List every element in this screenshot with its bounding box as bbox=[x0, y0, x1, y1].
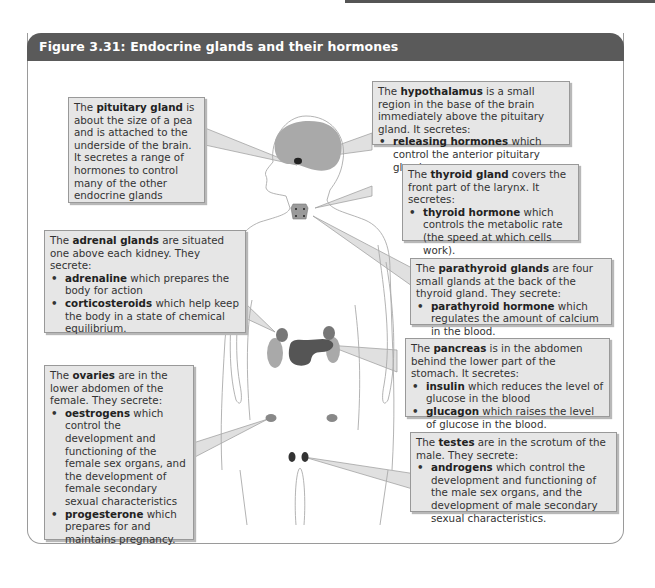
term-ovaries: ovaries bbox=[72, 369, 114, 381]
term-thyroid-gland: thyroid gland bbox=[430, 168, 508, 180]
pointer-thyroid bbox=[315, 186, 372, 208]
list-item: adrenaline which prepares the body for a… bbox=[50, 272, 240, 297]
term-testes: testes bbox=[438, 436, 474, 448]
testis-right bbox=[302, 452, 309, 462]
pointer-ovaries bbox=[193, 419, 268, 458]
callout-testes: The testes are in the scrotum of the mal… bbox=[410, 432, 617, 512]
pointer-parathyroid bbox=[313, 216, 412, 286]
ovary-right bbox=[327, 414, 338, 422]
kidney-left bbox=[267, 338, 283, 368]
testis-left bbox=[289, 452, 296, 462]
term-adrenal-glands: adrenal glands bbox=[72, 234, 158, 246]
callout-adrenal: The adrenal glands are situated one abov… bbox=[44, 230, 246, 333]
ovary-left bbox=[266, 414, 277, 422]
adrenal-left bbox=[276, 328, 288, 342]
list-item: thyroid hormone which controls the metab… bbox=[408, 206, 573, 256]
list-item: progesterone which prepares for and main… bbox=[50, 508, 188, 546]
adrenal-right bbox=[323, 326, 335, 340]
term-hypothalamus: hypothalamus bbox=[400, 85, 482, 97]
callout-hypothalamus: The hypothalamus is a small region in th… bbox=[372, 81, 570, 145]
pituitary-gland-shape bbox=[294, 158, 302, 164]
pointer-testes bbox=[304, 457, 416, 490]
list-item: glucagon which raises the level of gluco… bbox=[411, 405, 604, 430]
callout-pancreas: The pancreas is in the abdomen behind th… bbox=[405, 338, 610, 417]
brain-shape bbox=[275, 121, 342, 171]
callout-ovaries: The ovaries are in the lower abdomen of … bbox=[44, 365, 194, 540]
thyroid-gland-shape bbox=[291, 204, 308, 219]
term-pituitary-gland: pituitary gland bbox=[96, 101, 182, 113]
list-item: parathyroid hormone which regulates the … bbox=[416, 300, 606, 338]
term-parathyroid-glands: parathyroid glands bbox=[438, 262, 549, 274]
callout-thyroid: The thyroid gland covers the front part … bbox=[402, 164, 579, 241]
callout-pituitary: The pituitary gland is about the size of… bbox=[68, 97, 205, 203]
list-item: insulin which reduces the level of gluco… bbox=[411, 380, 604, 405]
term-pancreas: pancreas bbox=[433, 342, 486, 354]
callout-parathyroid: The parathyroid glands are four small gl… bbox=[410, 258, 612, 325]
list-item: corticosteroids which help keep the body… bbox=[50, 297, 240, 335]
list-item: androgens which control the development … bbox=[416, 461, 611, 524]
list-item: oestrogens which control the development… bbox=[50, 407, 188, 508]
body-outline bbox=[221, 116, 394, 525]
